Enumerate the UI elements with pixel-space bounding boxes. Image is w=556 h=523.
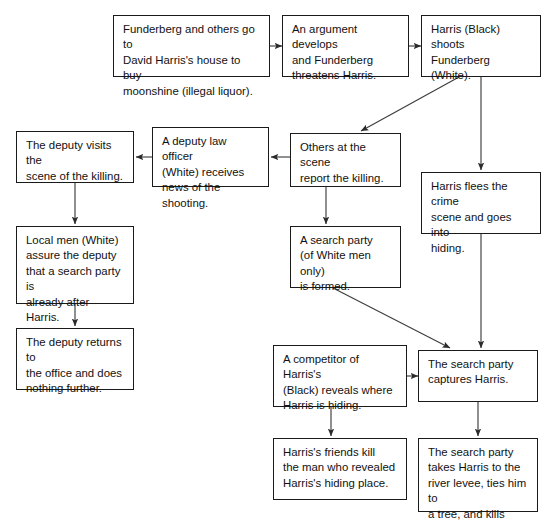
- node-competitor-reveals-location: A competitor of Harris's (Black) reveals…: [273, 345, 407, 407]
- node-deputy-receives-news: A deputy law officer (White) receives ne…: [152, 127, 269, 187]
- flowchart-diagram: Funderberg and others go to David Harris…: [0, 0, 556, 523]
- edge-shooting-to-others-report: [361, 77, 459, 131]
- node-deputy-visits-scene: The deputy visits the scene of the killi…: [16, 131, 134, 183]
- node-harris-flees: Harris flees the crime scene and goes in…: [421, 172, 541, 234]
- node-harris-killed-at-levee: The search party takes Harris to the riv…: [418, 438, 538, 512]
- node-search-party-formed: A search party (of White men only) is fo…: [290, 226, 401, 288]
- node-others-report-killing: Others at the scene report the killing.: [290, 133, 401, 187]
- node-search-party-captures-harris: The search party captures Harris.: [418, 350, 538, 402]
- node-harris-shoots-funderberg: Harris (Black) shoots Funderberg (White)…: [421, 15, 541, 77]
- node-local-men-assure-deputy: Local men (White) assure the deputy that…: [16, 226, 134, 304]
- node-friends-kill-informer: Harris's friends kill the man who reveal…: [273, 438, 407, 500]
- edge-search-party-to-capture: [333, 288, 450, 348]
- node-buy-moonshine: Funderberg and others go to David Harris…: [113, 15, 270, 77]
- node-argument-develops: An argument develops and Funderberg thre…: [282, 15, 409, 77]
- node-deputy-returns-office: The deputy returns to the office and doe…: [16, 328, 134, 390]
